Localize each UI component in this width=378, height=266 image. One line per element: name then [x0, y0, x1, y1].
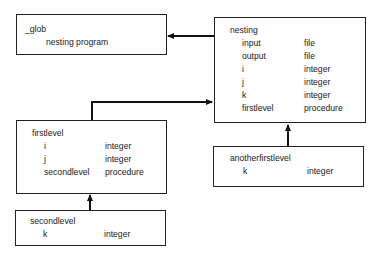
symbol-name: j: [44, 154, 46, 165]
symbol-name: secondlevel: [44, 167, 89, 178]
scope-subtitle: nesting program: [46, 37, 108, 48]
scope-title: firstlevel: [32, 128, 64, 139]
scope-box-anotherfirstlevel: anotherfirstlevel k integer: [213, 146, 364, 187]
symbol-type: integer: [304, 90, 330, 101]
scope-title: anotherfirstlevel: [230, 153, 291, 164]
symbol-name: output: [242, 51, 266, 62]
symbol-name: i: [44, 141, 46, 152]
symbol-type: integer: [104, 229, 130, 240]
symbol-name: j: [242, 77, 244, 88]
symbol-type: procedure: [105, 167, 144, 178]
symbol-type: procedure: [304, 103, 343, 114]
symbol-type: integer: [105, 141, 131, 152]
scope-box-secondlevel: secondlevel k integer: [15, 210, 166, 246]
scope-title: secondlevel: [30, 216, 75, 227]
scope-box-nesting: nesting input file output file i integer…: [214, 17, 366, 123]
symbol-name: input: [242, 38, 261, 49]
scope-box-firstlevel: firstlevel i integer j integer secondlev…: [16, 120, 167, 194]
arrow-firstlevel-to-nesting: [92, 102, 212, 120]
symbol-name: firstlevel: [242, 103, 274, 114]
symbol-name: k: [43, 229, 47, 240]
symbol-name: k: [243, 166, 247, 177]
scope-title: nesting: [230, 25, 258, 36]
symbol-type: integer: [307, 166, 333, 177]
symbol-type: file: [304, 38, 315, 49]
scope-title: _glob: [25, 24, 46, 35]
symbol-type: integer: [304, 64, 330, 75]
symbol-type: integer: [105, 154, 131, 165]
symbol-name: i: [242, 64, 244, 75]
scope-box-glob: _glob nesting program: [16, 14, 167, 55]
symbol-type: integer: [304, 77, 330, 88]
symbol-name: k: [242, 90, 246, 101]
symbol-type: file: [304, 51, 315, 62]
